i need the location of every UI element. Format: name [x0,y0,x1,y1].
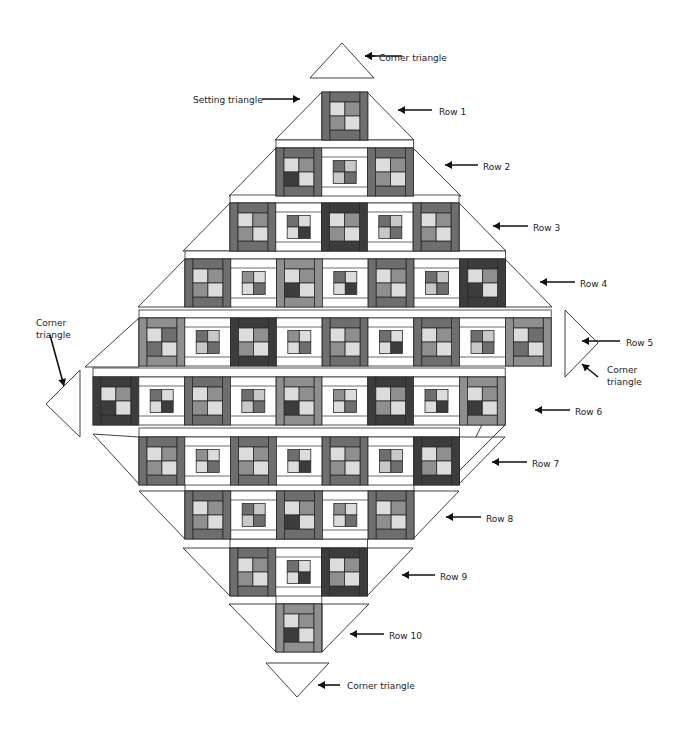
block-side-bar [185,259,193,307]
quilt-block-d [460,259,506,307]
block-side-bar [368,148,376,196]
block-top-bar [422,318,452,328]
arrow-head [398,106,405,114]
patch [299,387,314,401]
patch [345,116,360,130]
patch [425,283,437,295]
patch [333,390,345,402]
block-top-bar [330,548,360,558]
patch [376,387,391,401]
block-side-bar [185,491,193,539]
quilt-block-m [185,377,231,425]
label-row-3: Row 3 [533,222,560,234]
patch [345,102,360,116]
patch [345,283,357,295]
patch [436,213,451,227]
label-row-4: Row 4 [580,278,607,290]
patch [482,387,497,401]
block-side-bar [131,377,139,425]
patch [208,450,220,462]
label-row-5: Row 5 [626,337,653,349]
block-side-bar [230,203,238,251]
block-bottom-bar [330,241,360,251]
arrow-icon [445,161,478,169]
patch [425,390,437,402]
patch [390,227,402,239]
block-side-bar [359,548,367,596]
block-side-bar [497,377,505,425]
label-row-2: Row 2 [483,161,510,173]
block-top-bar [147,437,177,447]
patch [376,515,391,529]
patch [299,227,311,239]
patch [101,401,116,415]
patch [345,461,360,475]
patch [467,387,482,401]
patch [287,227,299,239]
patch [242,283,254,295]
quilt-block-m [368,491,414,539]
patch [345,161,357,173]
setting-triangle [229,148,276,196]
patch [391,331,403,343]
patch [483,342,495,354]
block-side-bar [322,548,330,596]
arrow-icon [582,337,620,345]
block-bottom-bar [330,130,360,140]
patch [299,614,314,628]
patch [376,401,391,415]
patch [345,272,357,284]
setting-triangle [183,203,230,251]
patch [467,401,482,415]
patch [483,283,498,297]
quilt-block-l [276,604,322,652]
arrow-icon [582,364,598,377]
patch [391,342,403,354]
setting-triangle [367,92,414,140]
block-side-bar [405,148,413,196]
quilt-block-m [231,437,277,485]
block-bottom-bar [193,529,223,539]
patch [437,401,449,413]
patch [300,515,315,529]
block-bottom-bar [284,186,314,196]
corner-triangle-right [565,310,598,377]
sashing-strip [139,310,551,318]
patch [437,447,452,461]
patch [437,390,449,402]
label-corner-triangle-top: Corner triangle [379,52,447,64]
block-top-bar [513,318,543,328]
patch [196,450,208,462]
block-side-bar [231,437,239,485]
block-bottom-bar [376,529,406,539]
quilt-block-w [322,491,368,539]
sashing-strip [230,539,367,548]
patch [330,116,345,130]
block-top-bar [284,148,314,158]
quilt-block-m [322,437,368,485]
patch [254,515,266,527]
patch [239,328,254,342]
patch [253,390,264,402]
label-row-9: Row 9 [440,571,467,583]
patch [333,161,345,173]
quilt-block-l [276,377,322,425]
patch [238,572,253,586]
patch [287,561,299,573]
patch [162,401,174,413]
block-side-bar [314,259,322,307]
arrow-shaft [50,335,64,386]
patch [471,342,483,354]
block-side-bar [314,377,322,425]
patch [425,272,437,284]
block-side-bar [368,259,376,307]
patch [483,331,495,343]
patch [208,387,223,401]
patch [391,283,406,297]
setting-triangle [367,548,413,596]
block-side-bar [460,259,468,307]
patch [379,342,391,354]
arrow-head [365,52,372,60]
corner-triangle-bottom [266,663,329,697]
patch [208,401,223,415]
